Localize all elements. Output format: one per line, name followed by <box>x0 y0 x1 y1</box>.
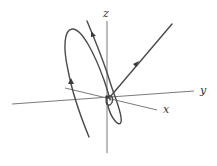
outer-spiral-loop <box>65 29 110 137</box>
y-axis-label: y <box>199 84 207 97</box>
origin-point <box>105 95 109 99</box>
arrow-icon <box>91 31 96 37</box>
x-axis-label: x <box>163 103 170 116</box>
trajectory-diagram: z y x <box>0 0 217 166</box>
straight-outgoing-ray <box>110 24 172 97</box>
z-axis-label: z <box>102 7 109 20</box>
arrow-icon <box>68 78 74 84</box>
inner-spiral-curve <box>87 21 121 124</box>
